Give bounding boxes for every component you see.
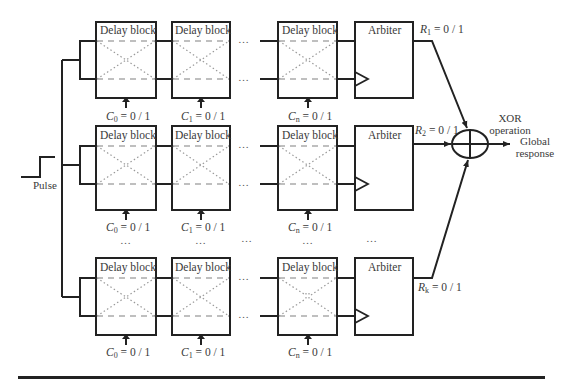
delay-block-label: Delay block [282, 25, 338, 37]
delay-block-label: Delay block [100, 130, 156, 142]
delay-block-label: Delay block [100, 262, 156, 274]
control-bit-label: Cn = 0 / 1 [288, 111, 332, 124]
response-label-r1: R1 = 0 / 1 [420, 24, 464, 37]
arbiter-label: Arbiter [368, 130, 401, 142]
delay-block-label: Delay block [100, 25, 156, 37]
control-bit-label: C0 = 0 / 1 [106, 347, 150, 360]
response-label-r2: R2 = 0 / 1 [415, 125, 459, 138]
ellipsis: … [241, 233, 253, 244]
control-bit-label: C1 = 0 / 1 [181, 347, 225, 360]
ellipsis: … [238, 72, 250, 83]
pulse-label: Pulse [33, 180, 57, 191]
ellipsis: … [238, 271, 250, 282]
ellipsis: … [238, 139, 250, 150]
ellipsis: … [238, 177, 250, 188]
diagram-graphics [0, 0, 567, 386]
delay-block-label: Delay block [282, 130, 338, 142]
row-k-graphics [80, 160, 468, 345]
arbiter-label: Arbiter [368, 262, 401, 274]
control-bit-label: C1 = 0 / 1 [181, 111, 225, 124]
control-bit-label: Cn = 0 / 1 [288, 347, 332, 360]
delay-block-label: Delay block [175, 262, 231, 274]
xor-label: XOR operation [485, 113, 535, 136]
ellipsis: … [366, 233, 378, 244]
ellipsis: … [238, 309, 250, 320]
ellipsis: … [120, 235, 132, 246]
control-bit-label: C0 = 0 / 1 [106, 111, 150, 124]
global-response-label: Global response [507, 136, 563, 159]
delay-block-label: Delay block [282, 262, 338, 274]
ellipsis: … [195, 235, 207, 246]
response-label-rk: Rk = 0 / 1 [418, 282, 462, 295]
pulse-step-icon [21, 157, 55, 177]
delay-block-label: Delay block [175, 25, 231, 37]
bottom-rule [18, 376, 545, 379]
arbiter-label: Arbiter [368, 25, 401, 37]
ellipsis: … [302, 235, 314, 246]
ellipsis: … [238, 34, 250, 45]
delay-block-label: Delay block [175, 130, 231, 142]
puf-diagram: Pulse Delay block Delay block Delay bloc… [0, 0, 567, 386]
input-trunk [62, 60, 80, 297]
